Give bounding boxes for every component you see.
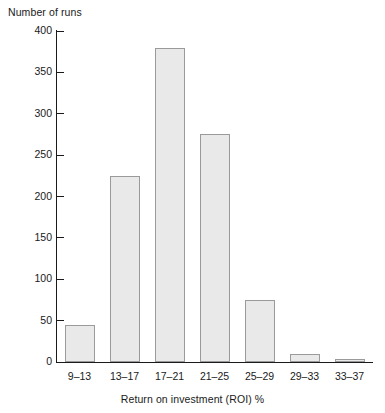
bar [335,359,365,362]
y-axis-tick-label: 50 [40,315,52,326]
y-axis-tick [57,155,64,156]
y-axis-tick [57,196,64,197]
x-axis-tick-label: 33–37 [327,370,372,382]
bar [155,48,185,362]
bar [110,176,140,362]
bar [245,300,275,362]
y-axis-tick-label: 250 [34,149,52,160]
y-axis-title: Number of runs [8,6,82,18]
x-axis-tick-label: 17–21 [147,370,192,382]
x-axis-tick-label: 29–33 [282,370,327,382]
y-axis-tick [57,320,64,321]
bar [65,325,95,362]
x-axis-line [56,362,373,363]
y-axis-tick-label: 200 [34,191,52,202]
y-axis-tick [57,362,64,363]
histogram-chart: Number of runs 050100150200250300350400 … [0,0,385,413]
y-axis-tick [57,72,64,73]
y-axis-tick [57,113,64,114]
y-axis-tick-label: 0 [46,356,52,367]
y-axis-tick [57,31,64,32]
y-axis-tick-label: 400 [34,25,52,36]
x-axis-tick-label: 25–29 [237,370,282,382]
bar [200,134,230,362]
y-axis-tick [57,237,64,238]
y-axis-tick-label: 150 [34,232,52,243]
y-axis-tick-label: 300 [34,108,52,119]
x-axis-tick-label: 9–13 [57,370,102,382]
x-axis-tick-label: 21–25 [192,370,237,382]
y-axis-tick-label: 350 [34,66,52,77]
x-axis-tick-label: 13–17 [102,370,147,382]
x-axis-title: Return on investment (ROI) % [0,393,385,405]
bar [290,354,320,362]
y-axis-tick [57,279,64,280]
y-axis-tick-label: 100 [34,273,52,284]
